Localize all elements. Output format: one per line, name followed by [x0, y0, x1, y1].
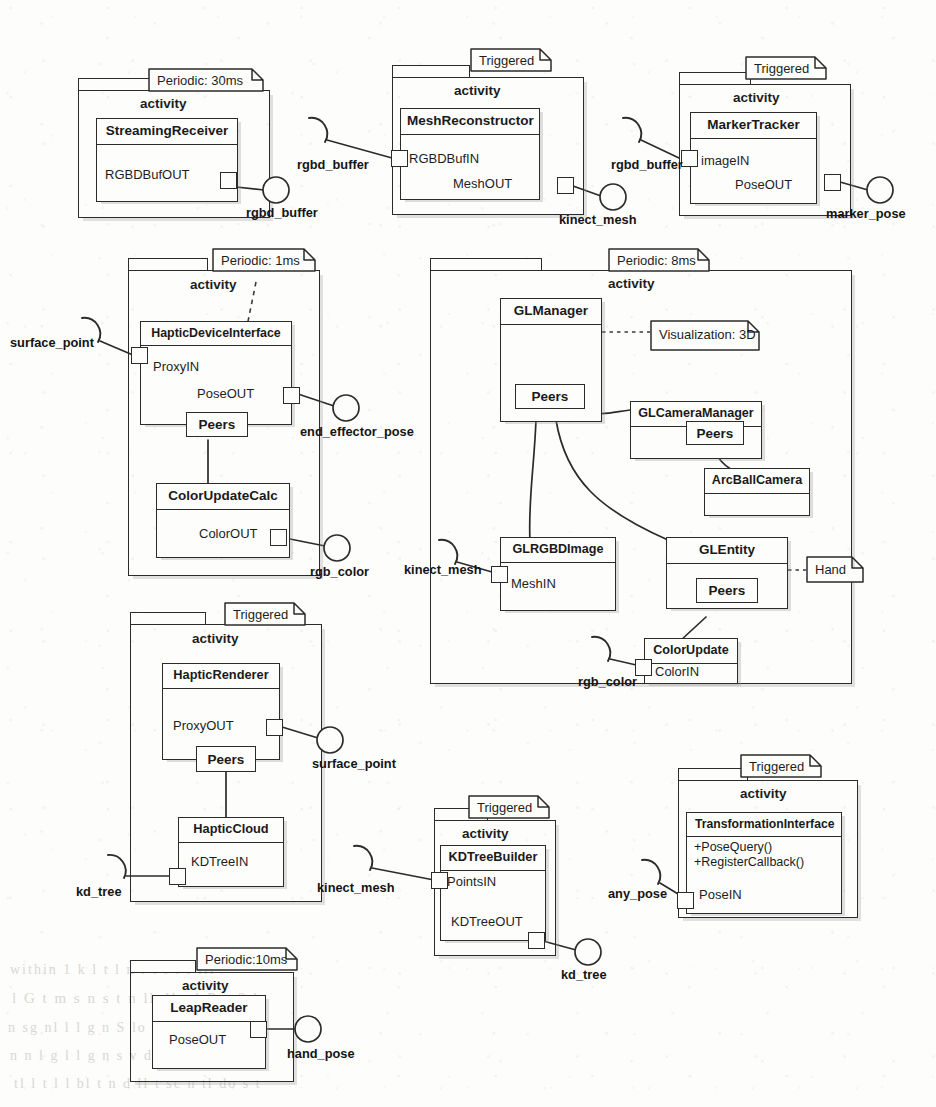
- label-hand-pose: hand_pose: [287, 1046, 355, 1061]
- lollipop-end-effector-pose: [333, 395, 359, 421]
- label-surface-point-provided: surface_point: [312, 756, 396, 771]
- label-rgb-color-provided: rgb_color: [310, 564, 369, 579]
- lollipop-rgbd-buffer: [263, 177, 289, 203]
- label-any-pose: any_pose: [608, 886, 667, 901]
- label-kd-tree-required: kd_tree: [76, 884, 122, 899]
- lollipop-hand-pose: [295, 1016, 321, 1042]
- socket-kd-tree: [108, 855, 126, 878]
- diagram-canvas: within 1 k l t l n l t l t l lli l G t m…: [0, 0, 936, 1107]
- label-end-effector-pose: end_effector_pose: [300, 424, 414, 439]
- label-kinect-mesh-provided: kinect_mesh: [559, 212, 637, 227]
- lollipop-marker-pose: [867, 177, 893, 203]
- socket-rgb-color: [592, 637, 610, 661]
- lollipop-kinect-mesh: [600, 184, 626, 210]
- label-kinect-mesh-required-gl: kinect_mesh: [404, 562, 482, 577]
- interface-symbols-layer: [0, 0, 936, 1107]
- socket-kinect-mesh-kd: [354, 846, 372, 870]
- lollipop-kd-tree: [575, 939, 601, 965]
- label-rgb-color-required: rgb_color: [578, 674, 637, 689]
- label-surface-point-required: surface_point: [10, 335, 94, 350]
- label-rgbd-buffer-provided: rgbd_buffer: [246, 205, 318, 220]
- socket-rgbd-buffer-mesh: [309, 118, 327, 142]
- socket-rgbd-buffer-marker: [623, 118, 641, 142]
- label-rgbd-buffer-required-mesh: rgbd_buffer: [297, 157, 369, 172]
- lollipop-rgb-color: [324, 535, 350, 561]
- socket-any-pose: [642, 860, 660, 884]
- label-rgbd-buffer-required-marker: rgbd_buffer: [611, 157, 683, 172]
- label-marker-pose: marker_pose: [826, 206, 906, 221]
- lollipop-surface-point: [317, 727, 343, 753]
- label-kinect-mesh-required-kd: kinect_mesh: [317, 880, 395, 895]
- socket-kinect-mesh-gl: [439, 540, 457, 564]
- label-kd-tree-provided: kd_tree: [561, 967, 607, 982]
